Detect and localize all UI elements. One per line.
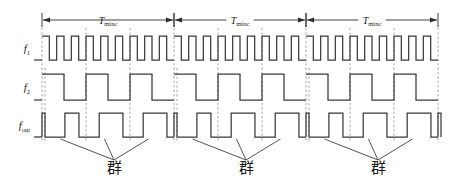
waveform-canvas: TmincTmincTminc群群群f1f2fout [0, 0, 453, 189]
signal-label-fout: fout [19, 119, 31, 133]
group-label-1: 群 [107, 159, 122, 177]
group-leader-line [114, 139, 148, 160]
waveform-f1-period-2 [174, 36, 306, 60]
waveform-fout-period-1 [42, 113, 174, 137]
group-label-3: 群 [371, 159, 386, 177]
signal-label-f1: f1 [24, 42, 30, 56]
group-leader-line [378, 139, 412, 160]
waveform-f2-period-2 [174, 74, 306, 100]
waveform-fout-period-2 [174, 113, 306, 137]
waveform-fout-period-3 [306, 113, 438, 137]
group-leader-layer [60, 139, 412, 160]
waveform-fout-end-spike [438, 113, 441, 137]
waveform-f2-period-1 [42, 74, 174, 100]
signal-label-f2: f2 [24, 81, 30, 95]
waveform-f1-period-1 [42, 36, 174, 60]
group-leader-line [246, 139, 280, 160]
timing-diagram-figure: TmincTmincTminc群群群f1f2fout [0, 0, 453, 189]
group-label-2: 群 [239, 159, 254, 177]
waveform-f1-period-3 [306, 36, 438, 60]
waveform-layer [34, 36, 441, 137]
waveform-f2-period-3 [306, 74, 438, 100]
label-layer: TmincTmincTminc群群群f1f2fout [19, 15, 386, 178]
